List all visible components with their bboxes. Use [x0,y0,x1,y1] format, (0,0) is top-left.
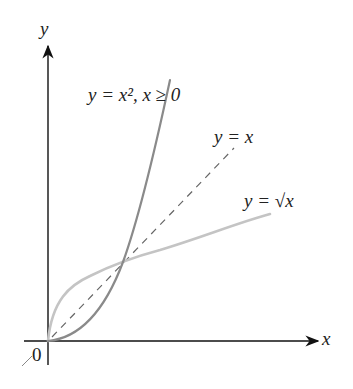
line-y-equals-x [52,148,234,337]
origin-label: 0 [32,344,42,366]
curve-sqrt-x [48,214,270,341]
label-line: y = x [214,126,253,148]
graph-canvas [0,0,353,389]
label-parabola: y = x², x ≥ 0 [88,84,180,106]
y-axis-label: y [40,18,48,40]
x-axis-label: x [322,328,330,350]
curve-x-squared [48,80,170,341]
origin-tick-mark [22,356,32,366]
label-sqrt: y = √x [244,190,294,212]
